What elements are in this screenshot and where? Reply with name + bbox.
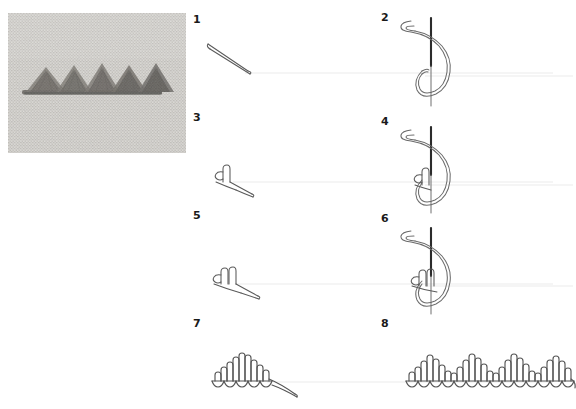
- tutorial-canvas: 1 2 3 4 5 6 7 8: [0, 0, 576, 409]
- thread-loop: [401, 21, 450, 96]
- step-number-8: 8: [381, 318, 389, 329]
- single-knot-with-tail: [215, 165, 254, 197]
- step-number-3: 3: [193, 112, 201, 123]
- step-8-figure: [395, 348, 575, 404]
- step-number-4: 4: [381, 116, 389, 127]
- step-number-7: 7: [193, 318, 201, 329]
- single-peak-fan: [212, 353, 297, 397]
- diagonal-thread-stroke: [207, 44, 251, 74]
- step-number-5: 5: [193, 210, 201, 221]
- step-2-figure: [395, 10, 575, 115]
- step-4-figure: [395, 113, 575, 218]
- step-number-1: 1: [193, 14, 201, 25]
- completed-knots: [411, 269, 437, 292]
- thread-loop: [401, 231, 450, 306]
- finished-stitch-photograph: [8, 13, 186, 153]
- step-6-figure: [395, 212, 575, 320]
- step-number-2: 2: [381, 12, 389, 23]
- five-peak-row: [406, 354, 575, 388]
- two-knots-with-tail: [213, 267, 260, 299]
- step-number-6: 6: [381, 213, 389, 224]
